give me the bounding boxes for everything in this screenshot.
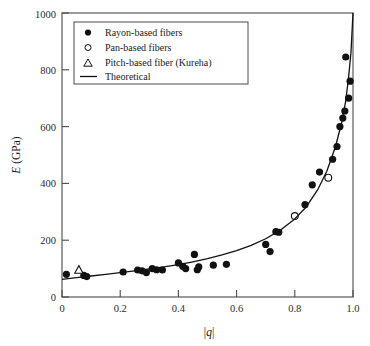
y-tick-label: 0 [51,292,56,303]
data-point [223,261,230,268]
data-point [182,265,189,272]
y-tick-label: 1000 [35,9,56,20]
x-tick-label: 0.4 [172,303,186,314]
y-tick-label: 400 [40,178,56,189]
x-tick-label: 1.0 [346,303,359,314]
y-tick-label: 800 [40,65,56,76]
data-point [262,241,269,248]
legend-label: Pitch-based fiber (Kureha) [105,57,212,69]
y-axis-label: E (GPa) [10,136,23,175]
x-tick-label: 0.8 [288,303,301,314]
x-tick-label: 0.6 [230,303,243,314]
legend: Rayon-based fibers Pan-based fibers Pitc… [74,22,248,84]
legend-label: Pan-based fibers [105,42,171,53]
data-point [316,168,323,175]
open-circle-icon [85,45,91,51]
x-tick-label: 0.2 [114,303,127,314]
y-tick-label: 200 [40,235,56,246]
data-point [191,251,198,258]
filled-circle-icon [85,29,91,35]
data-point [325,174,332,181]
data-point [309,181,316,188]
x-tick-label: 0 [59,303,64,314]
data-point [63,271,70,278]
figure-container: 0 200 400 600 800 1000 0 0.2 0.4 0.6 0.8… [0,0,370,346]
data-point [266,248,273,255]
data-point [195,263,202,270]
chart-svg: 0 200 400 600 800 1000 0 0.2 0.4 0.6 0.8… [0,0,370,346]
data-point [342,53,349,60]
y-tick-label: 600 [40,122,56,133]
x-axis-label: |q| [204,326,214,339]
legend-label: Rayon-based fibers [105,27,183,38]
data-point [210,262,217,269]
legend-label: Theoretical [105,71,151,82]
